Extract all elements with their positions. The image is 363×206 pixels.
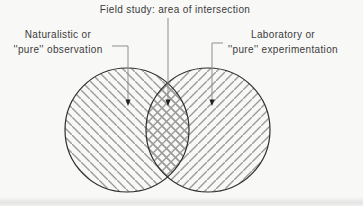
right-set-label-line1: Laboratory or [223,27,343,42]
venn-figure: Field study: area of intersection Natura… [0,0,363,206]
right-set-label: Laboratory or ''pure'' experimentation [223,27,343,57]
intersection-label: Field study: area of intersection [0,2,350,17]
page-edge-shadow [0,197,363,206]
left-set-label: Naturalistic or ''pure'' observation [6,27,110,57]
right-set-label-line2: ''pure'' experimentation [223,42,343,57]
left-set-label-line2: ''pure'' observation [6,42,110,57]
left-set-label-line1: Naturalistic or [6,27,110,42]
